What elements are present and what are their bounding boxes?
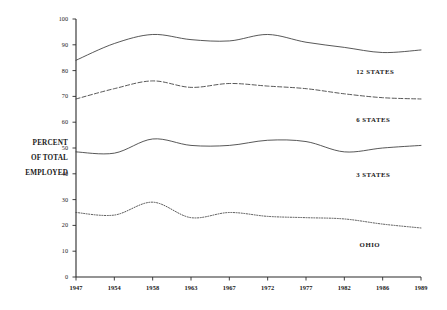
series-label-3-states: 3 STATES — [356, 171, 390, 178]
x-tick-label: 1977 — [291, 284, 321, 291]
series-label-12-states: 12 STATES — [356, 68, 394, 75]
y-tick-label: 80 — [52, 67, 68, 74]
x-tick-label: 1947 — [61, 284, 91, 291]
y-tick-label: 20 — [52, 221, 68, 228]
x-tick-label: 1967 — [214, 284, 244, 291]
y-tick-label: 100 — [52, 15, 68, 22]
y-tick-label: 70 — [52, 92, 68, 99]
y-axis-title-line-2: OF TOTAL — [10, 151, 68, 166]
y-tick-label: 60 — [52, 118, 68, 125]
x-tick-label: 1986 — [368, 284, 398, 291]
series-lines — [76, 34, 421, 228]
series-line-12-states — [76, 34, 421, 60]
series-line-ohio — [76, 202, 421, 228]
x-tick-label: 1954 — [99, 284, 129, 291]
x-tick-label: 1982 — [329, 284, 359, 291]
series-line-3-states — [76, 139, 421, 154]
x-tick-label: 1958 — [138, 284, 168, 291]
y-tick-label: 90 — [52, 41, 68, 48]
series-label-ohio: OHIO — [360, 241, 381, 248]
series-line-6-states — [76, 81, 421, 99]
x-tick-label: 1972 — [253, 284, 283, 291]
x-tick-label: 1989 — [406, 284, 436, 291]
series-label-6-states: 6 STATES — [356, 116, 390, 123]
y-tick-label: 0 — [52, 273, 68, 280]
x-tick-label: 1963 — [176, 284, 206, 291]
y-tick-label: 10 — [52, 247, 68, 254]
y-tick-label: 50 — [52, 144, 68, 151]
chart-container: PERCENT OF TOTAL EMPLOYED 01020304050607… — [0, 0, 447, 310]
y-tick-label: 40 — [52, 170, 68, 177]
y-tick-label: 30 — [52, 196, 68, 203]
